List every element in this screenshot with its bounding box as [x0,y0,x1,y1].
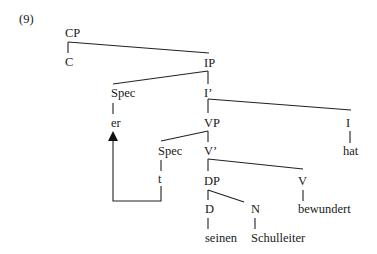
node-ip: IP [204,57,215,69]
node-vp: VP [204,117,220,129]
branch-dp-n [208,190,244,202]
syntax-tree: (9) CP C IP Spec er I’ VP I hat Spec t V… [0,0,377,254]
word-hat: hat [343,145,358,157]
node-cp: CP [65,27,80,39]
example-number: (9) [19,13,34,25]
node-dp: DP [204,175,220,187]
node-v: V [298,175,307,187]
node-spec-ip: Spec [111,87,135,99]
node-v-bar: V’ [204,145,217,157]
node-d: D [205,203,214,215]
node-n: N [251,203,260,215]
branch-cp-ip [68,42,209,53]
movement-arrow-line [113,140,161,201]
word-seinen: seinen [205,232,237,244]
word-er: er [111,117,121,129]
node-i-bar: I’ [204,87,212,99]
trace-t: t [158,173,161,185]
branch-vbar-v [208,159,303,169]
arrowhead-icon [108,131,118,141]
word-schulleiter: Schulleiter [251,232,305,244]
node-i: I [346,117,350,129]
word-bewundert: bewundert [298,203,351,215]
branch-ip-spec [113,71,208,84]
branch-vp-spec [161,131,208,141]
branch-ibar-i [208,99,351,110]
node-spec-vp: Spec [158,145,182,157]
node-c: C [65,56,73,68]
